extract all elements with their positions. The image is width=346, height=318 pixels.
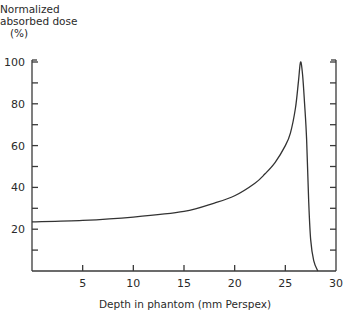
tick-labels: 5101520253020406080100 [4, 56, 343, 290]
x-tick-label: 10 [126, 277, 140, 290]
axes [32, 60, 336, 271]
series-line-bragg-curve [32, 62, 318, 271]
y-tick-label: 100 [4, 56, 25, 69]
y-tick-label: 80 [11, 98, 25, 111]
x-tick-label: 20 [228, 277, 242, 290]
y-tick-label: 20 [11, 223, 25, 236]
series-layer [32, 62, 318, 271]
x-tick-label: 15 [177, 277, 191, 290]
x-tick-label: 30 [329, 277, 343, 290]
y-tick-label: 60 [11, 140, 25, 153]
x-tick-label: 25 [278, 277, 292, 290]
chart-plot: 5101520253020406080100 Depth in phantom … [0, 0, 346, 318]
y-tick-label: 40 [11, 181, 25, 194]
ticks [32, 62, 336, 271]
x-axis-title: Depth in phantom (mm Perspex) [99, 298, 271, 310]
x-tick-label: 5 [79, 277, 86, 290]
